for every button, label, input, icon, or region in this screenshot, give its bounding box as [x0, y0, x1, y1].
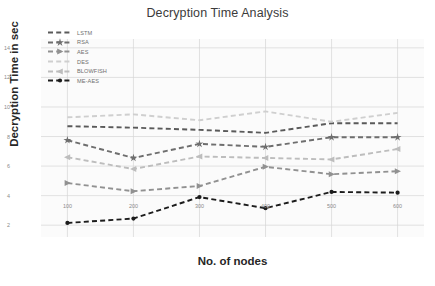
series-line — [67, 167, 397, 191]
legend-item-blowfish: BLOWFISH — [47, 66, 139, 76]
legend-item-aes: AES — [47, 47, 139, 57]
legend-swatch-icon — [47, 28, 73, 37]
x-axis-label: No. of nodes — [41, 255, 424, 267]
x-axis-tick-label: 500 — [317, 203, 347, 209]
series-lines — [63, 111, 401, 225]
legend-label: DES — [77, 59, 89, 65]
series-line — [67, 137, 397, 158]
series-line — [67, 192, 397, 223]
legend-item-rsa: RSA — [47, 38, 139, 48]
legend-item-lstm: LSTM — [47, 28, 139, 38]
legend-swatch-icon — [47, 38, 73, 47]
legend-swatch-icon — [47, 76, 73, 85]
x-axis-tick-label: 200 — [118, 203, 148, 209]
data-point — [329, 190, 333, 194]
legend-label: AES — [77, 49, 89, 55]
x-axis-tick-label: 100 — [52, 203, 82, 209]
data-point — [395, 191, 399, 195]
legend-label: RSA — [77, 39, 89, 45]
y-axis-tick-label: 12 — [0, 74, 10, 80]
y-axis-label: Decryption Time in sec — [8, 4, 20, 164]
legend-label: ME-AES — [77, 78, 99, 84]
y-axis-tick-label: 8 — [0, 134, 10, 140]
legend-item-des: DES — [47, 57, 139, 67]
legend-item-me-aes: ME-AES — [47, 76, 139, 86]
chart-legend: LSTMRSAAESDESBLOWFISHME-AES — [47, 28, 139, 86]
data-point — [131, 216, 135, 220]
legend-label: BLOWFISH — [77, 68, 107, 74]
caption-strip — [0, 268, 435, 286]
data-point — [65, 221, 69, 225]
legend-label: LSTM — [77, 30, 92, 36]
y-axis-tick-label: 2 — [0, 222, 10, 228]
chart-figure: Decryption Time Analysis Decryption Time… — [0, 0, 435, 286]
chart-title: Decryption Time Analysis — [0, 6, 435, 20]
legend-swatch-icon — [47, 57, 73, 66]
x-axis-tick-label: 600 — [383, 203, 413, 209]
legend-swatch-icon — [47, 47, 73, 56]
x-axis-tick-label: 400 — [251, 203, 281, 209]
y-axis-tick-label: 10 — [0, 104, 10, 110]
series-line — [67, 123, 397, 133]
y-axis-tick-label: 6 — [0, 163, 10, 169]
x-axis-tick-label: 300 — [184, 203, 214, 209]
y-axis-tick-label: 4 — [0, 193, 10, 199]
y-axis-tick-label: 14 — [0, 45, 10, 51]
legend-swatch-icon — [47, 67, 73, 76]
data-point — [197, 195, 201, 199]
series-line — [67, 111, 397, 121]
